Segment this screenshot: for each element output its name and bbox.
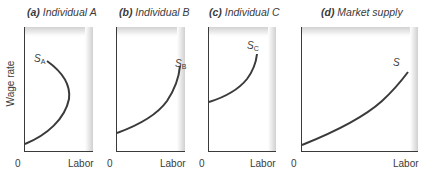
- panel-a-name: Individual A: [40, 6, 97, 18]
- panel-c-letter: (c): [209, 6, 222, 18]
- panel-a-curve: [25, 27, 94, 152]
- panel-b-curve: [117, 27, 186, 152]
- panel-c-name: Individual C: [222, 6, 280, 18]
- panel-a-letter: (a): [27, 6, 40, 18]
- panel-a-origin: 0: [15, 158, 21, 169]
- panel-d-x-label: Labor: [393, 158, 419, 169]
- panel-b-letter: (b): [119, 6, 132, 18]
- panel-d-curve-label: S: [393, 57, 400, 68]
- panel-b-plot: [116, 27, 185, 152]
- panel-b-origin: 0: [107, 158, 113, 169]
- panel-c-x-label: Labor: [250, 158, 276, 169]
- panel-b-title: (b) Individual B: [119, 6, 190, 18]
- panel-d-plot: [301, 27, 418, 152]
- panel-d-origin: 0: [291, 158, 297, 169]
- panel-a-curve-label: SA: [34, 53, 45, 65]
- panel-c-curve-label: SC: [247, 40, 259, 52]
- panel-c-title: (c) Individual C: [209, 6, 280, 18]
- panel-a-title: (a) Individual A: [27, 6, 97, 18]
- panel-a-x-label: Labor: [68, 158, 94, 169]
- panel-c-origin: 0: [199, 158, 205, 169]
- panel-d-curve: [302, 27, 419, 152]
- panel-c-curve: [209, 27, 277, 152]
- panel-d-title: (d) Market supply: [321, 6, 403, 18]
- panel-d-letter: (d): [321, 6, 334, 18]
- panel-d-name: Market supply: [334, 6, 402, 18]
- y-axis-label: Wage rate: [5, 61, 16, 107]
- panel-b-name: Individual B: [132, 6, 189, 18]
- panel-c-plot: [208, 27, 276, 152]
- panel-b-x-label: Labor: [160, 158, 186, 169]
- panel-b-curve-label: SB: [175, 58, 186, 70]
- panel-a-plot: [24, 27, 93, 152]
